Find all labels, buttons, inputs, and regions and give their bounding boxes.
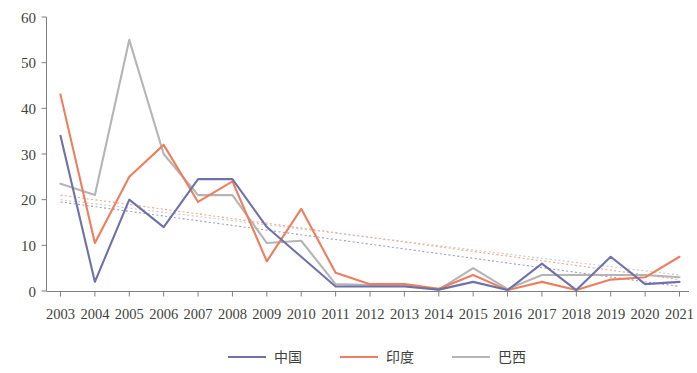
- y-tick-label: 50: [21, 55, 36, 71]
- x-tick-label: 2008: [218, 306, 247, 322]
- x-tick-label: 2005: [115, 306, 144, 322]
- series-line: [61, 136, 680, 290]
- x-tick-label: 2003: [46, 306, 75, 322]
- x-tick-label: 2020: [631, 306, 660, 322]
- x-tick-label: 2019: [596, 306, 625, 322]
- series-group: [61, 40, 680, 290]
- x-tick-label: 2009: [252, 306, 281, 322]
- x-tick-marks: [61, 292, 680, 297]
- x-tick-label: 2017: [527, 306, 556, 322]
- x-tick-labels: 2003200420052006200720082009201020112012…: [46, 306, 694, 322]
- trendline: [61, 200, 680, 275]
- legend-label[interactable]: 印度: [386, 349, 414, 365]
- x-tick-label: 2016: [493, 306, 522, 322]
- line-chart: 6050403020100 20032004200520062007200820…: [0, 0, 697, 373]
- x-tick-label: 2006: [149, 306, 178, 322]
- x-tick-label: 2010: [287, 306, 316, 322]
- x-tick-label: 2007: [184, 306, 213, 322]
- x-axis-group: 2003200420052006200720082009201020112012…: [46, 292, 694, 323]
- y-tick-labels: 6050403020100: [21, 10, 36, 300]
- trendline: [61, 195, 680, 279]
- y-tick-label: 0: [29, 284, 37, 300]
- legend-label[interactable]: 巴西: [498, 349, 526, 365]
- y-tick-label: 20: [21, 192, 36, 208]
- x-tick-label: 2018: [562, 306, 591, 322]
- x-tick-label: 2015: [459, 306, 488, 322]
- legend-label[interactable]: 中国: [274, 349, 302, 365]
- y-tick-label: 40: [21, 101, 36, 117]
- series-line: [61, 95, 680, 290]
- x-tick-label: 2004: [80, 306, 110, 322]
- trendline: [61, 202, 680, 286]
- x-tick-label: 2013: [390, 306, 419, 322]
- y-tick-label: 10: [21, 238, 36, 254]
- x-tick-label: 2014: [424, 306, 454, 322]
- series-line: [61, 40, 680, 290]
- y-axis-group: 6050403020100: [21, 10, 47, 300]
- y-tick-marks: [42, 17, 47, 291]
- trendlines-group: [61, 195, 680, 286]
- y-tick-label: 30: [21, 147, 36, 163]
- x-tick-label: 2011: [321, 306, 349, 322]
- legend: 中国印度巴西: [228, 349, 526, 365]
- x-tick-label: 2012: [356, 306, 385, 322]
- chart-canvas: 6050403020100 20032004200520062007200820…: [0, 0, 697, 373]
- y-tick-label: 60: [21, 10, 36, 26]
- x-tick-label: 2021: [665, 306, 694, 322]
